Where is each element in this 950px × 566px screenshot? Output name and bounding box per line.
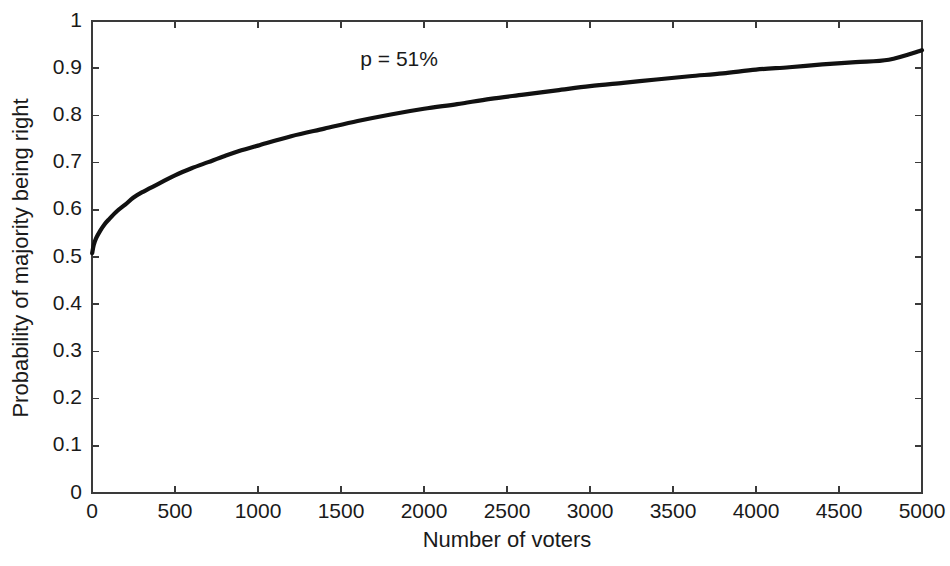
y-tick-label: 0.5 <box>53 244 82 267</box>
y-tick-label: 0.8 <box>53 102 82 125</box>
y-tick-label: 1 <box>70 8 82 31</box>
x-tick-label: 1000 <box>235 499 282 522</box>
y-tick-label: 0.1 <box>53 432 82 455</box>
x-tick-label: 3500 <box>650 499 697 522</box>
x-tick-label: 500 <box>157 499 192 522</box>
y-tick-label: 0.7 <box>53 149 82 172</box>
chart-background <box>0 0 950 566</box>
x-tick-label: 2500 <box>484 499 531 522</box>
y-tick-label: 0.6 <box>53 196 82 219</box>
x-tick-label: 4500 <box>816 499 863 522</box>
y-tick-label: 0.3 <box>53 338 82 361</box>
condorcet-jury-theorem-chart: 0500100015002000250030003500400045005000… <box>0 0 950 566</box>
y-tick-label: 0.2 <box>53 385 82 408</box>
chart-annotations: p = 51% <box>360 47 438 70</box>
x-tick-label: 4000 <box>733 499 780 522</box>
y-tick-label: 0.4 <box>53 291 83 314</box>
y-tick-label: 0 <box>70 480 82 503</box>
x-tick-label: 1500 <box>318 499 365 522</box>
curve-annotation-label: p = 51% <box>360 47 438 70</box>
x-axis-title: Number of voters <box>423 527 592 552</box>
x-tick-label: 5000 <box>899 499 946 522</box>
chart-figure: 0500100015002000250030003500400045005000… <box>0 0 950 566</box>
x-tick-label: 2000 <box>401 499 448 522</box>
y-axis-title: Probability of majority being right <box>8 98 33 417</box>
x-tick-label: 3000 <box>567 499 614 522</box>
y-tick-label: 0.9 <box>53 55 82 78</box>
x-tick-label: 0 <box>86 499 98 522</box>
